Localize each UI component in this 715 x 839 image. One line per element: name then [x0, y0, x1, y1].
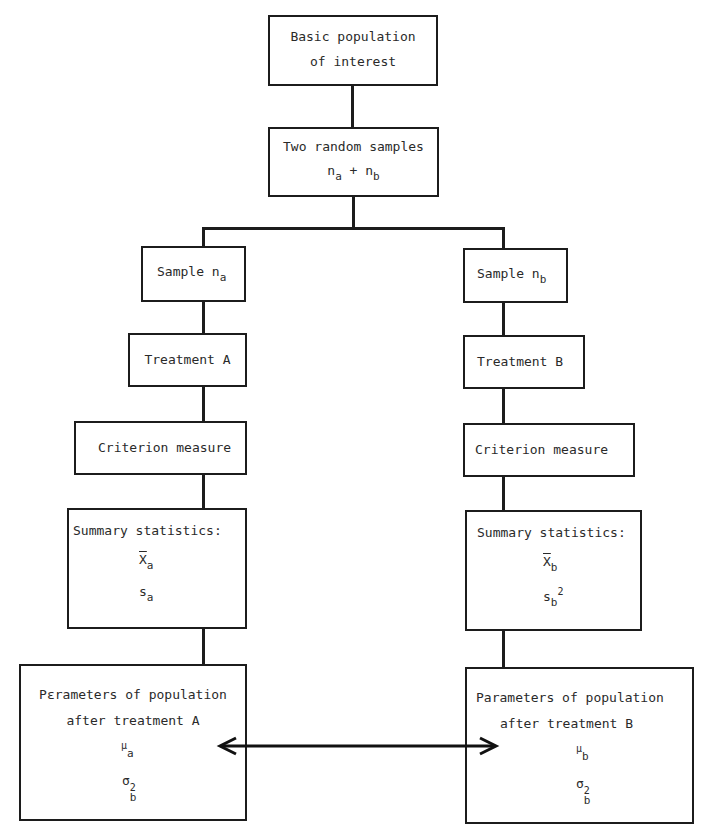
connector-right-4: [502, 629, 505, 668]
x-bar-symbol: X: [543, 554, 551, 569]
parameters-a-box: Pεrameters of population after treatment…: [19, 664, 247, 821]
two-random-samples-label: Two random samples: [270, 139, 437, 154]
subscript-a: a: [147, 591, 154, 604]
connector-right-2: [502, 387, 505, 424]
basic-population-line2: of interest: [270, 54, 436, 69]
subscript-a: a: [127, 747, 134, 760]
mean-b: Xb: [543, 554, 557, 574]
sample-b-box: Sample nb: [463, 248, 568, 303]
s-symbol: s: [543, 589, 551, 604]
parameters-b-line1: Parameters of population: [476, 690, 664, 705]
plus-sign: +: [350, 163, 358, 178]
subscript-b: b: [582, 750, 589, 763]
parameters-b-line2: after treatment B: [500, 716, 633, 731]
sample-b-label: Sample nb: [477, 266, 546, 286]
superscript-2: 2: [557, 586, 563, 597]
treatment-b-label: Treatment B: [477, 354, 563, 369]
sample-a-text: Sample n: [157, 264, 220, 279]
sample-a-box: Sample na: [141, 246, 246, 302]
connector-right-1: [502, 301, 505, 336]
sample-sizes-formula: na + nb: [270, 163, 437, 183]
sigma-squared-a: σ2b: [122, 773, 136, 803]
connector-samples-to-branch: [352, 196, 355, 229]
subscript-b: b: [584, 796, 591, 806]
summary-statistics-b-title: Summary statistics:: [477, 525, 626, 540]
sigma-symbol: σ: [122, 773, 130, 788]
subscript-a: a: [220, 271, 227, 284]
sample-b-text: Sample n: [477, 266, 540, 281]
connector-top-to-samples: [351, 85, 354, 127]
subscript-b: b: [130, 793, 137, 803]
n-symbol: n: [327, 163, 335, 178]
treatment-a-label: Treatment A: [130, 352, 245, 367]
variance-b: sb2: [543, 586, 563, 609]
x-bar-symbol: X: [139, 552, 147, 567]
sigma-squared-b: σ2b: [576, 776, 590, 806]
summary-statistics-b-box: Summary statistics: Xb sb2: [465, 510, 642, 631]
sample-a-label: Sample na: [157, 264, 226, 284]
subscript-b: b: [373, 170, 380, 183]
criterion-measure-b-box: Criterion measure: [463, 423, 635, 477]
summary-statistics-a-box: Summary statistics: Xa sa: [67, 508, 247, 629]
branch-horizontal: [202, 227, 505, 230]
parameters-a-line1: Pεrameters of population: [21, 687, 245, 702]
subscript-a: a: [335, 170, 342, 183]
subscript-b: b: [551, 561, 558, 574]
sigma-symbol: σ: [576, 776, 584, 791]
connector-left-3: [202, 473, 205, 509]
criterion-measure-a-label: Criterion measure: [98, 440, 231, 455]
subscript-b: b: [551, 596, 558, 609]
treatment-b-box: Treatment B: [463, 335, 585, 389]
mu-a: μa: [121, 740, 134, 760]
basic-population-line1: Basic population: [270, 29, 436, 44]
mean-a: Xa: [139, 552, 153, 572]
connector-left-4: [202, 627, 205, 665]
connector-left-1: [202, 300, 205, 334]
summary-statistics-a-title: Summary statistics:: [73, 523, 222, 538]
connector-left-2: [202, 385, 205, 422]
basic-population-box: Basic population of interest: [268, 15, 438, 86]
two-random-samples-box: Two random samples na + nb: [268, 127, 439, 197]
branch-left-down: [202, 227, 205, 247]
treatment-a-box: Treatment A: [128, 333, 247, 387]
parameters-a-line2: after treatment A: [21, 713, 245, 728]
std-dev-a: sa: [139, 584, 153, 604]
n-symbol: n: [365, 163, 373, 178]
subscript-b: b: [540, 273, 547, 286]
mu-b: μb: [576, 743, 589, 763]
subscript-a: a: [147, 559, 154, 572]
parameters-b-box: Parameters of population after treatment…: [465, 667, 694, 824]
branch-right-down: [502, 227, 505, 249]
s-symbol: s: [139, 584, 147, 599]
criterion-measure-a-box: Criterion measure: [74, 421, 247, 475]
criterion-measure-b-label: Criterion measure: [475, 442, 608, 457]
connector-right-3: [502, 475, 505, 511]
